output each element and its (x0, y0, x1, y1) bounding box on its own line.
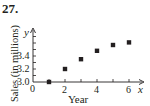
y-tick-label: 3.2 (17, 63, 30, 74)
data-point (127, 40, 131, 44)
x-axis-variable: x (137, 83, 143, 95)
x-tick-label: 4 (94, 84, 99, 95)
y-tick-label: 3.4 (17, 50, 30, 61)
scatter-plot: 3.0 3.2 3.4 0 2 4 6 y x (0, 0, 150, 106)
y-axis-variable: y (23, 26, 29, 38)
data-point (63, 67, 67, 71)
x-tick-label: 6 (126, 84, 131, 95)
data-points (47, 40, 131, 84)
data-point (79, 57, 83, 61)
data-point (95, 49, 99, 53)
data-point (47, 80, 51, 84)
x-tick-label: 0 (30, 83, 35, 94)
x-tick-label: 2 (62, 84, 67, 95)
y-tick-label: 3.0 (17, 76, 30, 87)
data-point (111, 43, 115, 47)
